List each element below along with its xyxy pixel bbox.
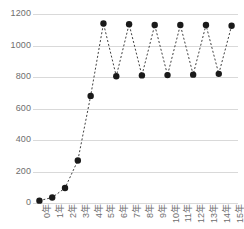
data-point-marker xyxy=(87,93,93,99)
data-point-marker xyxy=(126,21,132,27)
x-tick-label: 5年 xyxy=(107,204,116,229)
x-tick-label: 14年 xyxy=(223,204,232,229)
y-tick-label: 800 xyxy=(1,72,31,81)
data-point-marker xyxy=(203,22,209,28)
x-tick-label: 15年 xyxy=(236,204,244,229)
data-point-marker xyxy=(75,157,81,163)
data-point-marker xyxy=(62,185,68,191)
data-point-marker xyxy=(100,20,106,26)
x-tick-label: 9年 xyxy=(159,204,168,229)
x-tick-label: 8年 xyxy=(146,204,155,229)
data-point-marker xyxy=(216,71,222,77)
data-point-marker xyxy=(228,23,234,29)
y-tick-label: 400 xyxy=(1,135,31,144)
y-axis: 020040060080010001200 xyxy=(0,0,31,229)
x-tick-label: 13年 xyxy=(210,204,219,229)
plot-area xyxy=(33,14,238,203)
x-tick-label: 7年 xyxy=(133,204,142,229)
y-tick-label: 200 xyxy=(1,167,31,176)
data-point-marker xyxy=(190,71,196,77)
x-tick-label: 11年 xyxy=(184,204,193,229)
x-tick-label: 6年 xyxy=(120,204,129,229)
data-point-marker xyxy=(49,194,55,200)
x-tick-label: 1年 xyxy=(56,204,65,229)
y-tick-label: 1200 xyxy=(1,9,31,18)
data-point-marker xyxy=(152,22,158,28)
x-tick-label: 4年 xyxy=(95,204,104,229)
x-axis: 0年1年2年3年4年5年6年7年8年9年10年11年12年13年14年15年 xyxy=(33,204,238,229)
y-tick-label: 1000 xyxy=(1,41,31,50)
data-point-marker xyxy=(36,197,42,203)
x-tick-label: 0年 xyxy=(43,204,52,229)
x-tick-label: 2年 xyxy=(69,204,78,229)
x-tick-label: 10年 xyxy=(172,204,181,229)
series-line xyxy=(39,23,231,200)
x-tick-label: 3年 xyxy=(82,204,91,229)
y-tick-label: 600 xyxy=(1,104,31,113)
data-point-marker xyxy=(113,73,119,79)
x-tick-label: 12年 xyxy=(197,204,206,229)
data-series-line-chart xyxy=(33,14,238,203)
y-tick-label: 0 xyxy=(1,198,31,207)
data-point-marker xyxy=(177,22,183,28)
chart-container: 020040060080010001200 0年1年2年3年4年5年6年7年8年… xyxy=(0,0,244,229)
data-point-marker xyxy=(139,72,145,78)
data-point-marker xyxy=(164,72,170,78)
